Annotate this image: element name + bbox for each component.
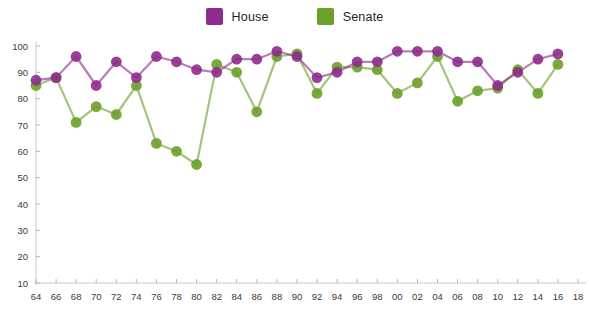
data-point-house-78[interactable]	[171, 56, 182, 67]
x-tick-label: 00	[392, 291, 403, 302]
data-point-senate-00[interactable]	[392, 88, 403, 99]
data-point-house-88[interactable]	[272, 46, 283, 57]
data-point-house-72[interactable]	[111, 56, 122, 67]
data-point-senate-80[interactable]	[191, 159, 202, 170]
x-tick-label: 86	[252, 291, 263, 302]
x-tick-label: 94	[332, 291, 343, 302]
x-tick-label: 06	[452, 291, 463, 302]
x-tick-label: 16	[553, 291, 564, 302]
data-point-house-12[interactable]	[512, 67, 523, 78]
y-tick-label: 90	[17, 67, 28, 78]
x-tick-label: 74	[131, 291, 142, 302]
data-point-house-02[interactable]	[412, 46, 423, 57]
data-point-senate-76[interactable]	[151, 138, 162, 149]
data-point-house-98[interactable]	[372, 56, 383, 67]
data-point-house-68[interactable]	[71, 51, 82, 62]
x-tick-label: 84	[231, 291, 242, 302]
x-tick-label: 80	[191, 291, 202, 302]
data-point-senate-68[interactable]	[71, 117, 82, 128]
x-tick-label: 92	[312, 291, 323, 302]
data-point-senate-72[interactable]	[111, 109, 122, 120]
data-point-senate-08[interactable]	[472, 85, 483, 96]
y-tick-label: 10	[17, 278, 28, 289]
y-tick-label: 80	[17, 93, 28, 104]
data-point-house-86[interactable]	[251, 54, 262, 65]
data-point-senate-06[interactable]	[452, 96, 463, 107]
data-point-senate-92[interactable]	[312, 88, 323, 99]
data-point-house-64[interactable]	[31, 75, 42, 86]
data-point-house-16[interactable]	[553, 49, 564, 60]
x-tick-label: 82	[211, 291, 222, 302]
x-tick-label: 66	[51, 291, 62, 302]
y-tick-label: 40	[17, 199, 28, 210]
x-tick-label: 70	[91, 291, 102, 302]
data-point-house-96[interactable]	[352, 56, 363, 67]
x-tick-label: 68	[71, 291, 82, 302]
data-point-senate-78[interactable]	[171, 146, 182, 157]
data-point-senate-14[interactable]	[533, 88, 544, 99]
y-tick-label: 60	[17, 146, 28, 157]
data-point-senate-02[interactable]	[412, 78, 423, 89]
data-point-house-08[interactable]	[472, 56, 483, 67]
data-point-house-66[interactable]	[51, 72, 62, 83]
series-line-senate	[36, 54, 558, 165]
x-tick-label: 10	[492, 291, 503, 302]
data-point-house-84[interactable]	[231, 54, 242, 65]
data-point-house-76[interactable]	[151, 51, 162, 62]
data-point-house-04[interactable]	[432, 46, 443, 57]
x-tick-label: 98	[372, 291, 383, 302]
data-point-house-74[interactable]	[131, 72, 142, 83]
x-tick-label: 18	[573, 291, 584, 302]
data-point-house-94[interactable]	[332, 67, 343, 78]
x-tick-label: 04	[432, 291, 443, 302]
x-tick-label: 64	[31, 291, 42, 302]
data-point-senate-70[interactable]	[91, 101, 102, 112]
x-tick-label: 72	[111, 291, 122, 302]
chart-container: House Senate 102030405060708090100646668…	[0, 0, 589, 316]
line-chart-svg: 1020304050607080901006466687072747678808…	[0, 0, 589, 316]
data-point-senate-16[interactable]	[553, 59, 564, 70]
x-tick-label: 88	[272, 291, 283, 302]
x-tick-label: 90	[292, 291, 303, 302]
data-point-house-82[interactable]	[211, 67, 222, 78]
data-point-house-14[interactable]	[533, 54, 544, 65]
y-tick-label: 70	[17, 120, 28, 131]
data-point-house-00[interactable]	[392, 46, 403, 57]
x-tick-label: 76	[151, 291, 162, 302]
y-tick-label: 50	[17, 172, 28, 183]
data-point-house-92[interactable]	[312, 72, 323, 83]
x-tick-label: 96	[352, 291, 363, 302]
data-point-house-90[interactable]	[292, 51, 303, 62]
data-point-senate-86[interactable]	[251, 106, 262, 117]
x-tick-label: 78	[171, 291, 182, 302]
plot-area: 1020304050607080901006466687072747678808…	[0, 0, 589, 316]
y-tick-label: 20	[17, 251, 28, 262]
data-point-house-70[interactable]	[91, 80, 102, 91]
data-point-senate-84[interactable]	[231, 67, 242, 78]
y-tick-label: 100	[12, 41, 28, 52]
x-tick-label: 14	[533, 291, 544, 302]
x-tick-label: 12	[512, 291, 523, 302]
data-point-house-06[interactable]	[452, 56, 463, 67]
data-point-house-80[interactable]	[191, 64, 202, 75]
data-point-house-10[interactable]	[492, 80, 503, 91]
x-tick-label: 08	[472, 291, 483, 302]
y-tick-label: 30	[17, 225, 28, 236]
x-tick-label: 02	[412, 291, 423, 302]
